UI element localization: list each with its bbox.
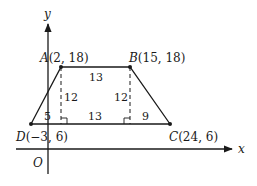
point-d (29, 122, 33, 126)
measure-bottom-left: 5 (44, 110, 51, 123)
y-axis-label: y (43, 7, 51, 21)
right-angle-marker-right (124, 118, 130, 124)
label-b: B(15, 18) (128, 51, 185, 65)
measure-height-right: 12 (114, 91, 128, 104)
measure-bottom-right: 9 (142, 110, 149, 123)
label-c: C(24, 6) (169, 130, 218, 144)
label-d: D(−3, 6) (15, 130, 68, 144)
point-c (168, 122, 172, 126)
point-b (128, 65, 132, 69)
measure-height-left: 12 (64, 91, 78, 104)
label-a: A(2, 18) (39, 51, 89, 65)
origin-label: O (33, 156, 43, 170)
point-a (59, 65, 63, 69)
measure-bottom-middle: 13 (88, 110, 102, 123)
right-angle-marker-left (61, 118, 67, 124)
x-axis-label: x (238, 142, 245, 156)
trapezoid-diagram: y x O A(2, 18) B(15, 18) C(24, 6) D(−3, … (0, 0, 257, 186)
measure-top-ab: 13 (89, 71, 103, 84)
